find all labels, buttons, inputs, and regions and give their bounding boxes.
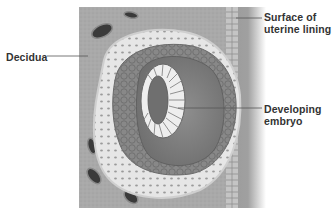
decidua-label-text: Decidua xyxy=(6,51,48,63)
embryo-label-line-1: Developing xyxy=(264,103,322,115)
uterine-lining-surface-label: Surface of uterine lining xyxy=(264,11,331,35)
embryo-label-line-2: embryo xyxy=(264,115,322,127)
developing-embryo-label: Developing embryo xyxy=(264,103,322,127)
decidua-label: Decidua xyxy=(6,51,48,63)
embryo-cell-ring xyxy=(141,64,185,138)
surface-label-line-1: Surface of xyxy=(264,11,331,23)
surface-label-line-2: uterine lining xyxy=(264,23,331,35)
